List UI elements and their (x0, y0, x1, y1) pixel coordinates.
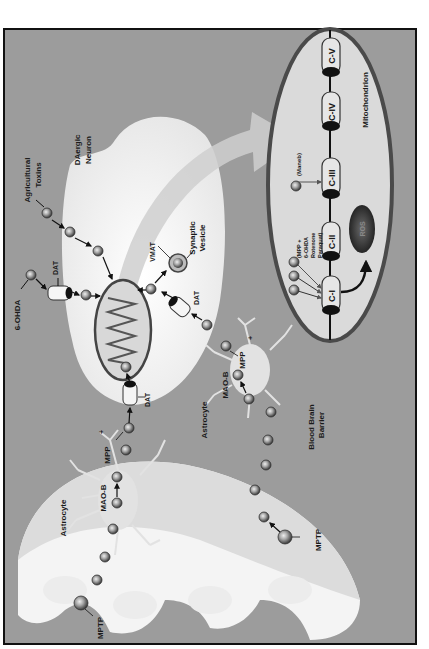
svg-text:ROS: ROS (359, 221, 366, 237)
svg-text:MPTP: MPTP (96, 616, 105, 639)
svg-text:+: + (98, 430, 105, 434)
svg-text:C-IV: C-IV (327, 103, 337, 121)
svg-text:MAO-B: MAO-B (99, 484, 108, 511)
svg-text:DAT: DAT (193, 290, 200, 305)
daergic-neuron-label-2: Neuron (84, 136, 93, 164)
svg-text:Barrier: Barrier (317, 412, 326, 438)
svg-text:Synaptic: Synaptic (188, 221, 197, 255)
dat-transporter-top (48, 286, 73, 300)
svg-text:Vesicle: Vesicle (198, 224, 207, 252)
neurotoxin-pathway-diagram: C-I C-II C-III C-IV C-V ROS (MPP + 6-OHD… (0, 0, 429, 649)
complex-c-iii: C-III (322, 158, 340, 199)
ros-ellipse: ROS (349, 205, 375, 253)
svg-text:MPTP: MPTP (314, 528, 323, 551)
svg-text:MPP: MPP (103, 446, 112, 464)
svg-text:Astrocyte: Astrocyte (59, 499, 68, 536)
svg-text:DAT: DAT (52, 260, 59, 275)
daergic-neuron-label: DAergic (73, 134, 82, 165)
svg-text:C-II: C-II (327, 235, 337, 250)
svg-text:6-OHDA: 6-OHDA (303, 237, 309, 258)
mitochondrion-label: Mitochondrion (361, 72, 370, 128)
svg-text:MPP: MPP (238, 351, 247, 369)
svg-text:(Maneb): (Maneb) (296, 153, 302, 176)
svg-text:C-I: C-I (327, 290, 337, 302)
svg-text:C-III: C-III (327, 170, 337, 187)
svg-text:+: + (247, 336, 254, 340)
svg-text:Rotenone: Rotenone (310, 233, 316, 258)
complex-c-ii: C-II (322, 222, 340, 261)
svg-text:VMAT: VMAT (149, 242, 156, 262)
complex-c-i: C-I (322, 276, 340, 315)
svg-text:MAO-B: MAO-B (221, 371, 230, 398)
svg-text:Paraquat): Paraquat) (317, 232, 323, 258)
svg-text:Blood Brain: Blood Brain (307, 404, 316, 449)
agricultural-toxins-label: Agricultural (23, 158, 32, 203)
agricultural-toxins-label-2: Toxins (34, 162, 43, 188)
svg-text:6-OHDA: 6-OHDA (13, 299, 22, 330)
svg-text:(MPP +: (MPP + (296, 240, 302, 258)
svg-text:Astrocyte: Astrocyte (200, 401, 209, 438)
complex-c-iv: C-IV (322, 92, 340, 131)
complex-c-v: C-V (322, 38, 340, 77)
svg-text:DAT: DAT (144, 392, 151, 407)
svg-text:C-V: C-V (327, 48, 337, 64)
